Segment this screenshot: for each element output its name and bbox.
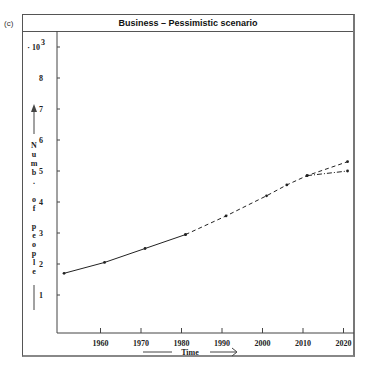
x-tick-label: 1960 bbox=[93, 339, 109, 348]
data-point bbox=[285, 184, 288, 187]
x-tick-label: 2000 bbox=[255, 339, 271, 348]
data-point bbox=[346, 170, 349, 173]
y-tick-label: 1 bbox=[39, 291, 43, 300]
y-axis-label-char: o bbox=[32, 195, 36, 204]
x-tick-label: 1970 bbox=[133, 339, 149, 348]
x-tick-label: 2010 bbox=[295, 339, 311, 348]
y-axis-label-char: N bbox=[31, 141, 37, 150]
data-point bbox=[144, 247, 147, 250]
arrow-up-icon bbox=[31, 104, 37, 112]
y-axis-label-char: p bbox=[32, 249, 37, 258]
y-axis-label-char: . bbox=[33, 177, 35, 186]
y-axis-label-char: f bbox=[33, 204, 36, 213]
y-axis-label-char: l bbox=[33, 258, 36, 267]
x-tick-label: 2020 bbox=[336, 339, 352, 348]
y-axis-label-char: e bbox=[32, 231, 36, 240]
series-line bbox=[64, 235, 186, 274]
y-axis-label-char: u bbox=[32, 150, 37, 159]
y-multiplier: · 10 bbox=[27, 43, 40, 52]
y-tick-label: 5 bbox=[39, 167, 43, 176]
data-point bbox=[103, 261, 106, 264]
y-tick-label: 8 bbox=[39, 74, 43, 83]
line-chart: 12345678· 103196019701980199020002010202… bbox=[0, 0, 368, 369]
x-tick-label: 1990 bbox=[214, 339, 230, 348]
y-tick-label: 6 bbox=[39, 136, 43, 145]
y-axis-label-char: b bbox=[32, 168, 37, 177]
y-tick-label: 4 bbox=[39, 198, 43, 207]
series-line bbox=[186, 162, 348, 235]
y-multiplier-exp: 3 bbox=[41, 38, 45, 47]
y-tick-label: 2 bbox=[39, 260, 43, 269]
y-axis-label-char: p bbox=[32, 222, 37, 231]
data-point bbox=[63, 272, 66, 275]
data-point bbox=[346, 160, 349, 163]
x-tick-label: 1980 bbox=[174, 339, 190, 348]
y-axis-label-char: m bbox=[31, 159, 38, 168]
data-point bbox=[306, 174, 309, 177]
y-tick-label: 7 bbox=[39, 105, 43, 114]
data-point bbox=[265, 194, 268, 197]
data-point bbox=[184, 233, 187, 236]
y-axis-label-char: e bbox=[32, 267, 36, 276]
y-axis-label-char: o bbox=[32, 240, 36, 249]
y-tick-label: 3 bbox=[39, 229, 43, 238]
data-point bbox=[225, 215, 228, 218]
x-axis-label: Time bbox=[181, 348, 199, 357]
